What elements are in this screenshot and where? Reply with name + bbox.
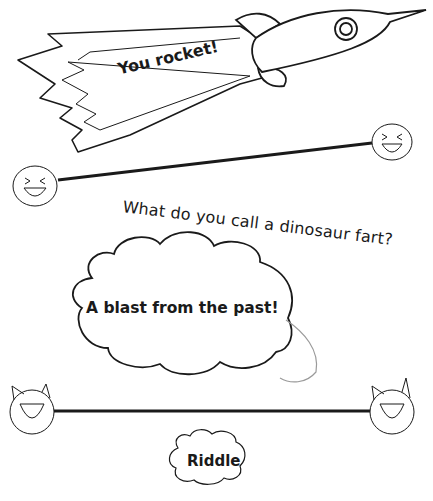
illustration-layer	[0, 0, 433, 501]
laughing-face-icon	[372, 124, 412, 160]
bottom-connector	[10, 378, 414, 434]
laughing-cat-icon	[10, 384, 54, 434]
riddle-answer: A blast from the past!	[86, 299, 279, 317]
laughing-cat-icon	[370, 378, 414, 434]
laughing-face-icon	[13, 166, 57, 206]
rocket-body	[236, 10, 426, 86]
riddle-badge: Riddle	[187, 452, 240, 470]
top-connector	[13, 124, 412, 206]
rocket-flame	[18, 26, 262, 152]
